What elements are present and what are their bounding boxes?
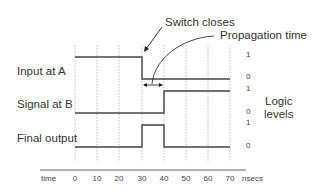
signal-label-final-output: Final output [17,133,77,145]
level-tick-a-high: 1 [246,51,250,59]
level-tick-a-low: 0 [246,73,250,81]
time-tick-40: 40 [160,175,169,183]
level-tick-out-low: 0 [246,142,250,150]
annotation-switch-closes: Switch closes [165,17,235,29]
propagation-double-arrow [143,83,163,87]
waveform-signal-b [75,91,230,113]
signal-label-input-a: Input at A [17,66,66,78]
logic-levels-label-line2: levels [264,109,293,121]
annotation-propagation-time: Propagation time [220,30,307,42]
signal-label-signal-b: Signal at B [17,99,73,111]
time-tick-60: 60 [204,175,213,183]
switch-closes-arrow [144,27,162,52]
time-tick-50: 50 [182,175,191,183]
time-tick-70: 70 [226,175,235,183]
waveform-final-output [75,125,230,147]
level-tick-out-high: 1 [246,119,250,127]
propagation-time-leader [152,36,214,84]
level-tick-b-low: 0 [246,108,250,116]
waveform-input-a [75,57,230,79]
time-axis-unit: nsecs [242,175,263,183]
time-tick-20: 20 [115,175,124,183]
time-gridlines [75,45,230,162]
time-tick-0: 0 [73,175,77,183]
time-tick-10: 10 [93,175,102,183]
time-axis-label: time [41,175,56,183]
level-tick-b-high: 1 [246,85,250,93]
logic-levels-label-line1: Logic [265,96,293,108]
time-tick-30: 30 [138,175,147,183]
